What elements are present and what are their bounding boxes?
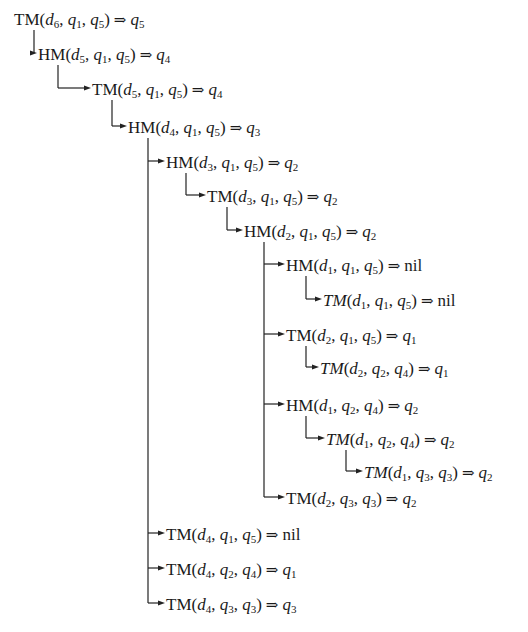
tree-node: HM(d4, q1, q5)⇒q3 [128, 118, 260, 142]
function-name: HM [38, 45, 65, 64]
tree-node: HM(d1, q1, q5)⇒nil [286, 256, 422, 280]
result-value: q4 [208, 80, 222, 99]
tree-node: TM(d5, q1, q5)⇒q4 [92, 80, 222, 104]
function-name: TM [166, 595, 192, 614]
arrowhead-icon [158, 159, 165, 164]
function-name: TM [323, 291, 347, 310]
tree-node: TM(d2, q3, q3)⇒q2 [286, 489, 416, 513]
implies-arrow-icon: ⇒ [266, 526, 279, 544]
function-name: TM [320, 359, 344, 378]
function-args: (d1, q1, q5) [347, 291, 417, 310]
result-value: nil [404, 256, 422, 275]
tree-node: TM(d4, q2, q4)⇒q1 [166, 560, 296, 584]
result-value: q2 [284, 153, 298, 172]
result-value: q2 [479, 463, 493, 482]
function-name: TM [14, 10, 40, 29]
result-value: nil [438, 291, 456, 310]
implies-arrow-icon: ⇒ [424, 431, 437, 449]
function-args: (d6, q1, q5) [40, 10, 110, 29]
implies-arrow-icon: ⇒ [140, 46, 153, 64]
implies-arrow-icon: ⇒ [192, 81, 205, 99]
arrowhead-icon [315, 297, 322, 302]
arrowhead-icon [120, 124, 127, 129]
implies-arrow-icon: ⇒ [421, 292, 434, 310]
result-value: q1 [402, 326, 416, 345]
implies-arrow-icon: ⇒ [266, 561, 279, 579]
function-name: TM [92, 80, 118, 99]
arrowhead-icon [312, 365, 319, 370]
result-value: q1 [435, 359, 449, 378]
result-value: q1 [282, 560, 296, 579]
result-value: nil [282, 525, 300, 544]
recursion-tree: TM(d6, q1, q5)⇒q5HM(d5, q1, q5)⇒q4TM(d5,… [0, 0, 528, 632]
tree-node: HM(d1, q2, q4)⇒q2 [286, 396, 418, 420]
tree-node: TM(d1, q2, q4)⇒q2 [326, 430, 455, 454]
function-args: (d2, q3, q3) [312, 489, 382, 508]
arrowhead-icon [278, 495, 285, 500]
function-name: HM [286, 256, 313, 275]
result-value: q4 [156, 45, 170, 64]
function-name: TM [326, 430, 350, 449]
function-args: (d1, q2, q4) [313, 396, 383, 415]
tree-node: HM(d5, q1, q5)⇒q4 [38, 45, 170, 69]
function-args: (d4, q3, q3) [192, 595, 262, 614]
tree-node: HM(d3, q1, q5)⇒q2 [166, 153, 298, 177]
tree-node: TM(d4, q1, q5)⇒nil [166, 525, 300, 549]
tree-node: TM(d2, q1, q5)⇒q1 [286, 326, 416, 350]
implies-arrow-icon: ⇒ [386, 327, 399, 345]
implies-arrow-icon: ⇒ [388, 397, 401, 415]
implies-arrow-icon: ⇒ [268, 154, 281, 172]
function-name: TM [364, 463, 388, 482]
arrowhead-icon [158, 566, 165, 571]
function-args: (d3, q1, q5) [233, 187, 303, 206]
result-value: q2 [362, 222, 376, 241]
arrowhead-icon [84, 86, 91, 91]
function-name: TM [166, 560, 192, 579]
tree-node: TM(d6, q1, q5)⇒q5 [14, 10, 144, 34]
tree-node: TM(d1, q1, q5)⇒nil [323, 291, 456, 315]
function-name: TM [286, 489, 312, 508]
result-value: q2 [404, 396, 418, 415]
function-args: (d1, q2, q4) [350, 430, 420, 449]
function-name: TM [207, 187, 233, 206]
arrowhead-icon [199, 193, 206, 198]
result-value: q2 [323, 187, 337, 206]
function-args: (d4, q1, q5) [155, 118, 225, 137]
implies-arrow-icon: ⇒ [346, 223, 359, 241]
tree-node: TM(d3, q1, q5)⇒q2 [207, 187, 337, 211]
function-args: (d2, q1, q5) [271, 222, 341, 241]
implies-arrow-icon: ⇒ [386, 490, 399, 508]
implies-arrow-icon: ⇒ [307, 188, 320, 206]
function-name: HM [244, 222, 271, 241]
function-args: (d3, q1, q5) [193, 153, 263, 172]
function-name: HM [286, 396, 313, 415]
tree-node: HM(d2, q1, q5)⇒q2 [244, 222, 376, 246]
result-value: q2 [441, 430, 455, 449]
function-name: HM [166, 153, 193, 172]
tree-node: TM(d4, q3, q3)⇒q3 [166, 595, 296, 619]
arrowhead-icon [318, 436, 325, 441]
arrowhead-icon [236, 228, 243, 233]
result-value: q3 [246, 118, 260, 137]
result-value: q5 [130, 10, 144, 29]
arrowhead-icon [356, 469, 363, 474]
function-args: (d5, q1, q5) [118, 80, 188, 99]
function-args: (d4, q1, q5) [192, 525, 262, 544]
function-args: (d5, q1, q5) [65, 45, 135, 64]
implies-arrow-icon: ⇒ [230, 119, 243, 137]
result-value: q3 [282, 595, 296, 614]
implies-arrow-icon: ⇒ [266, 596, 279, 614]
function-args: (d1, q3, q3) [388, 463, 458, 482]
arrowhead-icon [278, 332, 285, 337]
function-name: TM [166, 525, 192, 544]
arrowhead-icon [278, 262, 285, 267]
function-args: (d4, q2, q4) [192, 560, 262, 579]
function-args: (d2, q2, q4) [344, 359, 414, 378]
implies-arrow-icon: ⇒ [462, 464, 475, 482]
implies-arrow-icon: ⇒ [418, 360, 431, 378]
implies-arrow-icon: ⇒ [388, 257, 401, 275]
arrowhead-icon [158, 601, 165, 606]
function-name: HM [128, 118, 155, 137]
implies-arrow-icon: ⇒ [114, 11, 127, 29]
tree-node: TM(d1, q3, q3)⇒q2 [364, 463, 493, 487]
